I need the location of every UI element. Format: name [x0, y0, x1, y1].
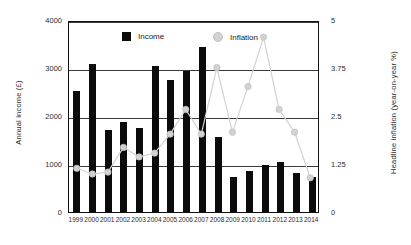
y-axis-right-tick-label: 5: [331, 16, 371, 25]
inflation-marker-2004: [151, 150, 157, 156]
y-axis-left-tick-label: 4000: [22, 16, 62, 25]
x-axis-tick-label-2014: 2014: [298, 216, 324, 223]
line-series-inflation: [69, 22, 318, 212]
inflation-marker-2000: [89, 171, 95, 177]
chart-container: Annual income (£) Headline inflation (ye…: [0, 0, 411, 245]
inflation-marker-2003: [136, 154, 142, 160]
inflation-line-path: [77, 37, 310, 178]
y-axis-left-tick-label: 0: [22, 208, 62, 217]
legend-circle-icon: [213, 32, 223, 42]
legend-item-inflation: Inflation: [213, 32, 258, 42]
inflation-marker-2008: [214, 64, 220, 70]
legend-item-income: Income: [122, 32, 164, 41]
inflation-marker-1999: [74, 165, 80, 171]
legend-square-icon: [122, 32, 131, 41]
inflation-marker-2007: [198, 131, 204, 137]
inflation-marker-2011: [260, 34, 266, 40]
y-axis-right-title: Headline inflation (year-on-year %): [389, 38, 398, 188]
y-axis-left-tick-label: 3000: [22, 64, 62, 73]
inflation-marker-2010: [245, 83, 251, 89]
y-axis-left-tick-label: 2000: [22, 112, 62, 121]
inflation-marker-2014: [307, 175, 313, 181]
y-axis-right-tick-label: 0: [331, 208, 371, 217]
y-axis-right-tick-label: 3.75: [331, 64, 371, 73]
inflation-marker-2001: [105, 169, 111, 175]
inflation-marker-2005: [167, 131, 173, 137]
y-axis-left-tick-label: 1000: [22, 160, 62, 169]
inflation-marker-2002: [120, 144, 126, 150]
legend-label-inflation: Inflation: [230, 33, 258, 42]
legend-label-income: Income: [138, 32, 164, 41]
plot-area: [68, 21, 319, 213]
inflation-marker-2009: [229, 129, 235, 135]
y-axis-right-tick-label: 1.25: [331, 160, 371, 169]
inflation-marker-2006: [183, 106, 189, 112]
inflation-marker-2013: [291, 129, 297, 135]
inflation-marker-2012: [276, 106, 282, 112]
y-axis-right-tick-label: 2.5: [331, 112, 371, 121]
